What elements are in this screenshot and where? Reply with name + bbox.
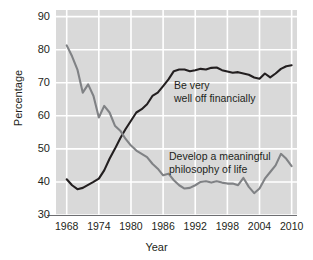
- data-series-layer: [56, 10, 297, 215]
- x-axis-spine: [47, 215, 297, 216]
- x-axis-tick-label: 1968: [47, 221, 87, 232]
- y-axis-tick-label: 70: [24, 77, 50, 88]
- x-axis-tick-label: 1998: [207, 221, 247, 232]
- annotation-line-1: Develop a meaningful: [169, 150, 271, 163]
- annotation-line-2: philosophy of life: [169, 163, 271, 176]
- x-axis-tick-label: 1986: [143, 221, 183, 232]
- y-axis-tick-label: 60: [24, 110, 50, 121]
- x-axis-tick-label: 2010: [272, 221, 312, 232]
- y-axis-tick-label: 50: [24, 143, 50, 154]
- chart-root: 30405060708090 1968197419801986199219982…: [0, 0, 313, 260]
- annotation-develop-a-meaningful-philosophy-of-life: Develop a meaningful philosophy of life: [169, 150, 271, 175]
- annotation-line-1: Be very: [174, 79, 256, 92]
- y-axis-title: Percentage: [12, 58, 24, 138]
- x-axis-tick-label: 1992: [175, 221, 215, 232]
- annotation-be-very-well-off-financially: Be very well off financially: [174, 79, 256, 104]
- x-axis-title: Year: [0, 241, 313, 253]
- y-axis-tick-label: 80: [24, 44, 50, 55]
- y-axis-tick-label: 90: [24, 11, 50, 22]
- y-axis-tick-label: 40: [24, 176, 50, 187]
- annotation-line-2: well off financially: [174, 92, 256, 105]
- plot-area: [56, 10, 297, 215]
- x-axis-tick-label: 1980: [111, 221, 151, 232]
- x-axis-tick-label: 2004: [240, 221, 280, 232]
- x-axis-tick-label: 1974: [79, 221, 119, 232]
